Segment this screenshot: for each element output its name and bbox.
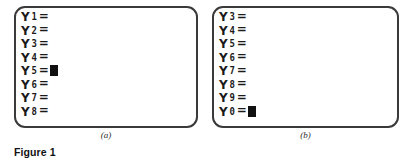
equation-row[interactable]: Y8= [219, 78, 393, 92]
equation-row[interactable]: Y6= [219, 51, 393, 65]
calculator-screen-a[interactable]: Y1=Y2=Y3=Y4=Y5=Y6=Y7=Y8= [14, 6, 198, 128]
equals-sign: = [237, 77, 247, 91]
variable-letter: Y [219, 24, 228, 38]
equals-sign: = [39, 50, 49, 64]
equation-row[interactable]: Y2= [21, 24, 192, 38]
variable-letter: Y [21, 37, 30, 51]
equals-sign: = [39, 23, 49, 37]
variable-letter: Y [219, 37, 228, 51]
equals-sign: = [237, 91, 247, 105]
equals-sign: = [39, 10, 49, 24]
variable-index: 0 [229, 105, 234, 120]
variable-letter: Y [219, 51, 228, 65]
equation-row[interactable]: Y6= [21, 78, 192, 92]
variable-index: 5 [31, 64, 36, 79]
calculator-screen-b[interactable]: Y3=Y4=Y5=Y6=Y7=Y8=Y9=Y0= [212, 6, 399, 128]
variable-index: 7 [229, 64, 234, 79]
variable-letter: Y [21, 24, 30, 38]
variable-index: 8 [31, 105, 36, 120]
text-cursor [248, 106, 256, 117]
equals-sign: = [39, 64, 49, 78]
variable-letter: Y [21, 91, 30, 105]
variable-letter: Y [21, 105, 30, 119]
equals-sign: = [39, 77, 49, 91]
equals-sign: = [237, 50, 247, 64]
variable-index: 7 [31, 91, 36, 106]
variable-index: 5 [229, 37, 234, 52]
equals-sign: = [237, 104, 247, 118]
variable-index: 1 [31, 10, 36, 25]
panel-caption-a: (a) [14, 130, 198, 140]
equals-sign: = [39, 104, 49, 118]
equals-sign: = [39, 91, 49, 105]
variable-letter: Y [21, 51, 30, 65]
text-cursor [50, 65, 58, 76]
variable-index: 3 [229, 10, 234, 25]
panel-caption-b: (b) [212, 130, 399, 140]
equals-sign: = [237, 64, 247, 78]
variable-letter: Y [219, 91, 228, 105]
equals-sign: = [237, 10, 247, 24]
variable-letter: Y [219, 78, 228, 92]
equation-row[interactable]: Y4= [21, 51, 192, 65]
variable-letter: Y [219, 105, 228, 119]
equation-row[interactable]: Y0= [219, 105, 393, 119]
variable-letter: Y [219, 64, 228, 78]
equation-list-a: Y1=Y2=Y3=Y4=Y5=Y6=Y7=Y8= [21, 10, 192, 124]
equation-row[interactable]: Y4= [219, 24, 393, 38]
variable-letter: Y [219, 10, 228, 24]
variable-index: 9 [229, 91, 234, 106]
figure-label: Figure 1 [14, 146, 56, 158]
equals-sign: = [237, 23, 247, 37]
equation-list-b: Y3=Y4=Y5=Y6=Y7=Y8=Y9=Y0= [219, 10, 393, 124]
equals-sign: = [237, 37, 247, 51]
equation-row[interactable]: Y8= [21, 105, 192, 119]
variable-index: 3 [31, 37, 36, 52]
equals-sign: = [39, 37, 49, 51]
variable-letter: Y [21, 78, 30, 92]
variable-letter: Y [21, 10, 30, 24]
variable-letter: Y [21, 64, 30, 78]
